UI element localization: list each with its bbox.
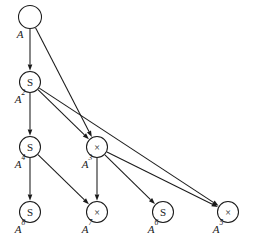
node-circle[interactable] — [19, 6, 42, 29]
graph-edge — [107, 152, 218, 207]
graph-edge — [95, 158, 100, 201]
edge-arrowhead — [87, 130, 92, 137]
square-op-glyph: S — [160, 206, 166, 218]
node-label-n1: A — [16, 28, 24, 40]
multiply-icon: × — [94, 142, 100, 153]
graph-edge — [36, 28, 92, 137]
edge-arrowhead — [28, 195, 33, 201]
graph-edge — [28, 29, 33, 71]
edges-layer — [28, 28, 219, 207]
square-op-glyph: S — [27, 76, 33, 88]
graph-edge — [28, 158, 33, 201]
nodes-layer: SS×S×S× — [19, 6, 239, 223]
graph-edge — [38, 90, 89, 139]
graph-figure: SS×S×S× AA2A4A3A8A7A6A5 — [0, 0, 254, 252]
graph-node-n1[interactable] — [19, 6, 42, 29]
multiply-icon: × — [94, 207, 100, 218]
graph-edge — [105, 155, 155, 204]
multiply-icon: × — [225, 207, 231, 218]
graph-edge — [28, 93, 33, 136]
square-op-glyph: S — [27, 206, 33, 218]
edge-arrowhead — [28, 65, 33, 71]
node-label-n3: A3 — [81, 153, 93, 170]
node-label-n6: A6 — [147, 218, 159, 235]
edge-arrowhead — [95, 195, 100, 201]
graph-edge — [39, 88, 218, 206]
node-label-n2: A2 — [14, 88, 26, 105]
graph-canvas: SS×S×S× AA2A4A3A8A7A6A5 — [0, 0, 254, 252]
labels-layer: AA2A4A3A8A7A6A5 — [14, 28, 224, 235]
node-label-n4: A4 — [14, 153, 26, 170]
node-label-n5: A5 — [212, 218, 224, 235]
node-label-n8: A8 — [14, 218, 26, 235]
edge-arrowhead — [28, 130, 33, 136]
node-label-n7: A7 — [81, 218, 93, 235]
square-op-glyph: S — [27, 141, 33, 153]
